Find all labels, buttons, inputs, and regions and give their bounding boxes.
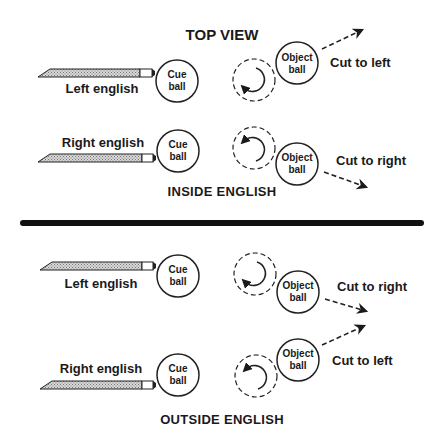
ghost-ball [234, 253, 276, 295]
object-ball-label: Object [282, 348, 314, 359]
cue-tip [153, 262, 156, 270]
cue-ball-label: ball [168, 81, 185, 92]
cue-tip [152, 69, 155, 77]
cue-tip [153, 154, 156, 162]
cue-ferrule [142, 381, 153, 389]
cue-ball-label: ball [169, 276, 186, 287]
direction-arrow-icon [324, 172, 366, 187]
section-caption-outside-english: OUTSIDE ENGLISH [160, 412, 284, 427]
diagram-canvas: TOP VIEW Cue ball Left english Object ba… [0, 0, 444, 439]
result-label: Cut to right [337, 279, 408, 294]
object-ball-label: ball [288, 64, 305, 75]
result-label: Cut to right [336, 153, 407, 168]
row-inside-right-english: Cue ball Right english Object ball Cut t… [38, 127, 407, 187]
cue-ball-label: Cue [169, 363, 188, 374]
cue-ferrule [140, 69, 152, 77]
cue-ball-label: ball [169, 375, 186, 386]
row-outside-left-english: Cue ball Left english Object ball Cut to… [40, 253, 408, 313]
object-ball-label: Object [281, 52, 313, 63]
cue-stick [38, 154, 142, 162]
cue-ball-label: Cue [169, 264, 188, 275]
cue-ball-label: ball [169, 151, 186, 162]
english-label: Left english [66, 81, 139, 96]
ghost-ball [233, 127, 275, 169]
direction-arrow-icon [322, 30, 362, 49]
spin-arrow-icon [245, 262, 265, 285]
direction-arrow-icon [322, 326, 364, 345]
spin-arrow-icon [244, 68, 264, 91]
object-ball-label: ball [289, 360, 306, 371]
ghost-ball [235, 355, 277, 397]
cue-ferrule [142, 262, 153, 270]
cue-stick [38, 69, 140, 77]
section-caption-inside-english: INSIDE ENGLISH [168, 184, 277, 199]
english-label: Right english [62, 135, 144, 150]
ghost-ball [233, 59, 275, 101]
object-ball-label: ball [288, 164, 305, 175]
spin-arrow-icon [246, 366, 266, 389]
direction-arrow-icon [325, 299, 366, 311]
english-label: Left english [65, 276, 138, 291]
object-ball-label: Object [282, 280, 314, 291]
object-ball-label: Object [281, 152, 313, 163]
spin-arrow-icon [244, 138, 264, 161]
cue-ball-label: Cue [169, 139, 188, 150]
english-label: Right english [60, 361, 142, 376]
cue-stick [40, 381, 142, 389]
cue-ferrule [142, 154, 153, 162]
row-outside-right-english: Cue ball Right english Object ball Cut t… [40, 326, 393, 397]
object-ball-label: ball [289, 292, 306, 303]
cue-ball-label: Cue [168, 69, 187, 80]
cue-tip [153, 381, 156, 389]
object-ball [276, 42, 318, 84]
diagram-title: TOP VIEW [186, 26, 260, 43]
cue-stick [40, 262, 142, 270]
result-label: Cut to left [330, 55, 391, 70]
result-label: Cut to left [332, 353, 393, 368]
